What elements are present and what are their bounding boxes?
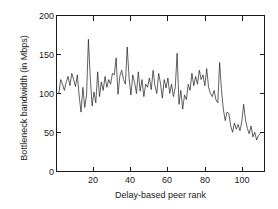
- x-tick-label-100: 100: [227, 176, 257, 185]
- bandwidth-series-line: [59, 39, 260, 140]
- x-tick-label-20: 20: [78, 176, 108, 185]
- plot-area: [56, 15, 265, 172]
- x-tick-label-80: 80: [190, 176, 220, 185]
- y-axis-title: Bottleneck bandwidth (in Mbps): [19, 8, 29, 188]
- x-tick-label-40: 40: [115, 176, 145, 185]
- data-line-svg: [57, 16, 264, 171]
- chart-figure: 200 150 100 50 0 20 40 60 80 100 Delay-b…: [0, 0, 278, 209]
- x-axis-title: Delay-based peer rank: [56, 190, 265, 200]
- x-tick-label-60: 60: [152, 176, 182, 185]
